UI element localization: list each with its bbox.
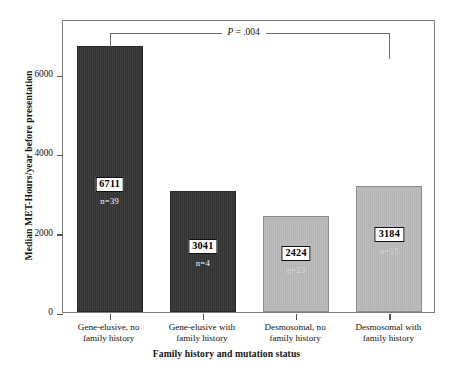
plot-area: 0 2000 4000 6000 6711 n=39 3041 n=4 2424…: [62, 20, 435, 313]
y-tick-label: 2000: [0, 228, 53, 238]
y-tick-mark: [57, 314, 63, 315]
y-tick-mark: [57, 155, 63, 156]
bar-value-label: 3184: [375, 227, 404, 242]
x-category-line: Desmosomal, no: [243, 322, 347, 333]
y-tick-label: 4000: [0, 148, 53, 158]
x-category-label-4: Desmosomal with family history: [336, 322, 440, 344]
x-category-line: family history: [243, 333, 347, 344]
x-category-label-2: Gene-elusive with family history: [150, 322, 254, 344]
y-tick-mark: [57, 234, 63, 235]
bar-desmosomal-no-family-history[interactable]: 2424 n=23: [263, 216, 329, 312]
x-category-label-3: Desmosomal, no family history: [243, 322, 347, 344]
x-category-label-1: Gene-elusive, no family history: [57, 322, 161, 344]
x-tick-4: [389, 314, 390, 320]
bar-n-label: n=15: [380, 246, 399, 256]
x-category-line: Desmosomal with: [336, 322, 440, 333]
x-tick-3: [296, 314, 297, 320]
bar-value-label: 3041: [188, 239, 217, 254]
y-axis-title: Median MET-Hours/year before presentatio…: [23, 26, 34, 306]
significance-p-value-label: P = .004: [222, 27, 266, 37]
bar-value-label: 6711: [95, 177, 124, 192]
x-tick-2: [203, 314, 204, 320]
y-tick-label: 0: [0, 307, 53, 317]
significance-bracket-left-stem: [110, 33, 111, 47]
significance-bracket-right-stem: [389, 33, 390, 59]
x-axis-title: Family history and mutation status: [0, 348, 453, 359]
bar-gene-elusive-with-family-history[interactable]: 3041 n=4: [170, 191, 236, 312]
bar-n-label: n=23: [287, 265, 306, 275]
x-category-line: Gene-elusive with: [150, 322, 254, 333]
x-tick-1: [110, 314, 111, 320]
x-category-line: Gene-elusive, no: [57, 322, 161, 333]
x-category-line: family history: [57, 333, 161, 344]
x-category-line: family history: [150, 333, 254, 344]
figure: Median MET-Hours/year before presentatio…: [0, 0, 453, 369]
bar-desmosomal-with-family-history[interactable]: 3184 n=15: [356, 186, 422, 312]
p-value-text: = .004: [233, 27, 259, 37]
bar-gene-elusive-no-family-history[interactable]: 6711 n=39: [77, 46, 143, 312]
y-tick-label: 6000: [0, 69, 53, 79]
bar-n-label: n=39: [100, 196, 119, 206]
bar-n-label: n=4: [196, 258, 210, 268]
y-tick-mark: [57, 76, 63, 77]
x-category-line: family history: [336, 333, 440, 344]
bar-value-label: 2424: [282, 246, 311, 261]
